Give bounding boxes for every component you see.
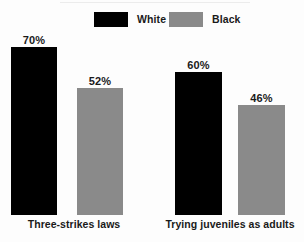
plot-area: 70% 52% 60% 46%: [0, 0, 304, 215]
bar-trying-juveniles-white: 60%: [175, 72, 222, 215]
bar-chart: White Black 70% 52% 60% 46% Three-strike…: [0, 0, 304, 242]
bar-three-strikes-black: 52%: [77, 88, 123, 215]
bar-fill: [11, 47, 57, 215]
bar-value-label: 60%: [187, 59, 210, 71]
bar-value-label: 52%: [89, 75, 112, 87]
bar-trying-juveniles-black: 46%: [238, 105, 285, 215]
bar-value-label: 70%: [23, 34, 46, 46]
bar-three-strikes-white: 70%: [11, 47, 57, 215]
bar-fill: [175, 72, 222, 215]
bar-value-label: 46%: [250, 92, 273, 104]
category-axis: Three-strikes laws Trying juveniles as a…: [0, 218, 304, 242]
category-label-trying-juveniles: Trying juveniles as adults: [165, 218, 294, 230]
bar-fill: [238, 105, 285, 215]
category-label-three-strikes: Three-strikes laws: [28, 218, 121, 230]
bar-fill: [77, 88, 123, 215]
